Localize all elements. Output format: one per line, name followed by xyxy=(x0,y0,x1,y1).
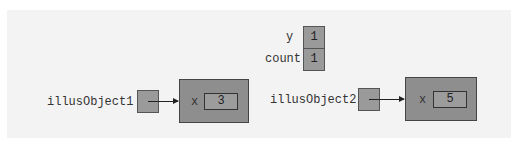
object-field-label-1: x xyxy=(191,95,198,109)
static-var-cell-count: 1 xyxy=(303,48,325,71)
object-box-1: x 3 xyxy=(179,79,249,123)
object-field-value-1: 3 xyxy=(204,93,238,110)
object-box-2: x 5 xyxy=(405,77,477,121)
reference-label-2: illusObject2 xyxy=(270,93,356,107)
static-var-label-count: count xyxy=(265,52,301,66)
object-field-label-2: x xyxy=(419,93,426,107)
object-field-value-2: 5 xyxy=(433,91,467,108)
static-var-cell-y: 1 xyxy=(303,26,325,49)
reference-label-1: illusObject1 xyxy=(47,95,133,109)
pointer-arrow-1 xyxy=(148,101,178,102)
pointer-arrow-2 xyxy=(369,99,404,100)
static-var-label-y: y xyxy=(286,30,293,44)
